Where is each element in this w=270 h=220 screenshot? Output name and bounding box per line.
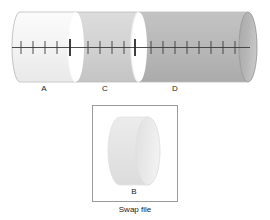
figure-canvas: A C D B Swap file: [0, 0, 270, 220]
segment-a-body: [12, 12, 76, 82]
segment-d-body: [139, 12, 248, 82]
cylinder-right-endcap: [239, 12, 257, 82]
swap-cylinder-label-b: B: [124, 187, 144, 197]
segment-label-a: A: [34, 84, 54, 94]
segment-label-c: C: [95, 84, 115, 94]
swap-file-caption: Swap file: [92, 205, 178, 215]
segment-label-d: D: [165, 84, 185, 94]
segment-c-body: [76, 12, 139, 82]
swap-cylinder-endcap: [136, 117, 160, 185]
